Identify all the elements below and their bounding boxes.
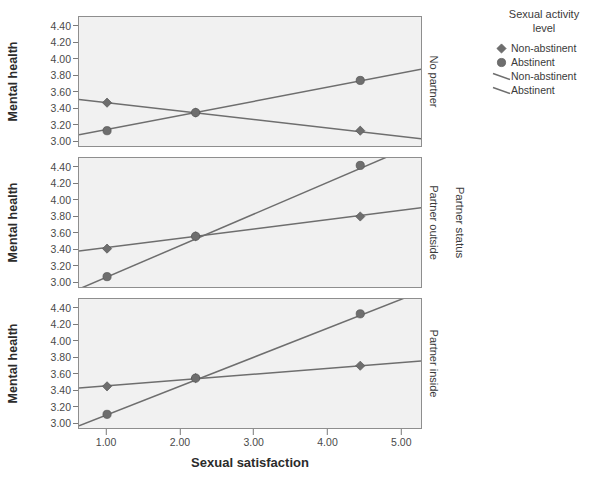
legend-entry-1[interactable]: Abstinent — [492, 56, 607, 69]
chart-root: Mental health Mental health Mental healt… — [0, 0, 611, 485]
data-point — [103, 127, 111, 135]
legend-title-line-1: Sexual activity — [492, 8, 596, 22]
legend-title-line-2: level — [492, 22, 596, 36]
fit-line — [79, 69, 422, 135]
data-point — [103, 273, 111, 281]
panel-strip-label-1: Partner outside — [428, 157, 440, 288]
y-tick-label: 3.80 — [51, 211, 71, 222]
legend-label: Non-abstinent — [511, 43, 576, 54]
panel-strip-label-2: Partner inside — [428, 298, 440, 429]
panel-partner-outside — [78, 157, 422, 288]
x-tick-0: 1.00 — [96, 429, 116, 448]
y-tick-label: 4.00 — [51, 194, 71, 205]
series-non-abstinent — [79, 207, 422, 253]
panel-0-plot — [79, 17, 422, 147]
data-point — [192, 108, 200, 116]
legend: Sexual activitylevel Non-abstinentAbstin… — [492, 8, 607, 98]
fit-line — [79, 299, 422, 426]
y-tick-label: 3.20 — [51, 119, 71, 130]
x-tick-mark — [179, 429, 180, 435]
y-tick-label: 3.60 — [51, 86, 71, 97]
y-tick-label: 4.40 — [51, 302, 71, 313]
series-abstinent — [79, 158, 422, 288]
x-tick-label: 4.00 — [317, 436, 337, 448]
data-point — [192, 232, 200, 240]
panel-variable-label: Partner status — [454, 157, 466, 288]
x-tick-mark — [106, 429, 107, 435]
series-non-abstinent — [79, 98, 422, 139]
data-point — [356, 76, 364, 84]
data-point — [192, 374, 200, 382]
y-tick-label: 3.80 — [51, 352, 71, 363]
x-tick-label: 3.00 — [243, 436, 263, 448]
legend-title: Sexual activitylevel — [492, 8, 596, 36]
series-abstinent — [79, 299, 422, 426]
plot-area-panel-2 — [78, 298, 422, 429]
data-point — [356, 212, 365, 221]
y-tick-label: 4.40 — [51, 20, 71, 31]
data-point — [356, 361, 365, 370]
series-abstinent — [79, 69, 422, 135]
fit-line — [79, 207, 422, 251]
x-tick-mark — [253, 429, 254, 435]
fit-line — [79, 99, 422, 139]
x-tick-label: 1.00 — [96, 436, 116, 448]
x-tick-label: 2.00 — [170, 436, 190, 448]
y-tick-label: 3.80 — [51, 70, 71, 81]
x-axis: 1.002.003.004.005.00 — [78, 429, 422, 453]
legend-entries: Non-abstinentAbstinentNon-abstinentAbsti… — [492, 42, 607, 97]
data-point — [356, 310, 364, 318]
y-tick-label: 4.40 — [51, 161, 71, 172]
y-tick-label: 3.00 — [51, 417, 71, 428]
y-tick-label: 3.00 — [51, 276, 71, 287]
data-point — [102, 98, 111, 107]
x-tick-3: 4.00 — [317, 429, 337, 448]
data-point — [356, 161, 364, 169]
legend-entry-0[interactable]: Non-abstinent — [492, 42, 607, 55]
data-point — [356, 126, 365, 135]
x-axis-title: Sexual satisfaction — [78, 455, 422, 470]
x-tick-label: 5.00 — [391, 436, 411, 448]
y-tick-label: 4.20 — [51, 37, 71, 48]
legend-label: Abstinent — [511, 85, 555, 96]
panel-strip-label-0: No partner — [428, 16, 440, 147]
y-axis-panel-2: 3.003.203.403.603.804.004.204.40 — [0, 298, 78, 429]
line-sample — [492, 70, 511, 83]
y-axis-panel-0: 3.003.203.403.603.804.004.204.40 — [0, 16, 78, 147]
legend-label: Non-abstinent — [511, 71, 576, 82]
y-tick-label: 4.00 — [51, 53, 71, 64]
circle-marker — [492, 56, 511, 69]
legend-entry-3[interactable]: Abstinent — [492, 84, 607, 97]
y-tick-label: 3.40 — [51, 385, 71, 396]
panel-no-partner — [78, 16, 422, 147]
panel-1-plot — [79, 158, 422, 288]
y-tick-label: 3.60 — [51, 227, 71, 238]
plot-area-panel-0 — [78, 16, 422, 147]
data-point — [102, 244, 111, 253]
y-tick-label: 3.60 — [51, 368, 71, 379]
plot-area-panel-1 — [78, 157, 422, 288]
line-sample — [492, 84, 511, 97]
fit-line — [79, 361, 422, 388]
y-tick-label: 4.00 — [51, 335, 71, 346]
y-axis-panel-1: 3.003.203.403.603.804.004.204.40 — [0, 157, 78, 288]
y-tick-label: 3.40 — [51, 103, 71, 114]
data-point — [103, 410, 111, 418]
panel-2-plot — [79, 299, 422, 429]
data-point — [102, 382, 111, 391]
y-tick-label: 4.20 — [51, 178, 71, 189]
x-tick-1: 2.00 — [170, 429, 190, 448]
diamond-marker — [492, 42, 511, 55]
legend-label: Abstinent — [511, 57, 555, 68]
y-tick-label: 4.20 — [51, 319, 71, 330]
x-tick-2: 3.00 — [243, 429, 263, 448]
legend-entry-2[interactable]: Non-abstinent — [492, 70, 607, 83]
fit-line — [79, 158, 422, 288]
x-tick-mark — [327, 429, 328, 435]
y-tick-label: 3.40 — [51, 244, 71, 255]
y-tick-label: 3.20 — [51, 401, 71, 412]
y-tick-label: 3.20 — [51, 260, 71, 271]
series-non-abstinent — [79, 361, 422, 391]
y-tick-label: 3.00 — [51, 135, 71, 146]
x-tick-4: 5.00 — [391, 429, 411, 448]
